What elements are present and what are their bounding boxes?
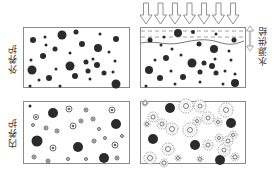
curing-agent-core: [93, 140, 95, 142]
curing-agent-particle: [162, 161, 166, 165]
cement-particle: [145, 85, 148, 88]
label-internal-curing: 内养护: [7, 118, 17, 148]
cement-particle: [29, 85, 32, 88]
cement-particle: [102, 71, 107, 76]
curing-agent-core: [111, 109, 114, 112]
cement-particle: [199, 81, 202, 84]
curing-agent-particle: [233, 155, 237, 159]
curing-agent-core: [32, 124, 33, 125]
curing-agent-particle: [232, 134, 235, 137]
curing-agent-core: [114, 144, 117, 147]
cement-particle: [154, 59, 157, 62]
cement-particle: [59, 85, 62, 88]
cement-particle: [145, 66, 153, 74]
cement-particle: [234, 73, 237, 76]
curing-agent-core: [68, 108, 71, 111]
cement-particle: [148, 134, 158, 144]
curing-agent-core: [85, 109, 87, 111]
cement-particle: [180, 74, 186, 80]
curing-agent-particle: [222, 148, 226, 152]
cement-particle: [28, 66, 37, 75]
cement-particle: [58, 31, 67, 40]
cement-particle: [226, 118, 236, 128]
curing-agent-core: [104, 137, 105, 138]
curing-agent-particle: [217, 121, 220, 124]
cement-particle: [29, 105, 32, 108]
cement-particle: [108, 51, 111, 54]
curing-agent-core: [47, 160, 49, 162]
cement-particle: [214, 58, 217, 61]
cement-particle: [180, 54, 183, 57]
cement-particle: [157, 75, 163, 81]
cement-particle: [191, 30, 195, 34]
curing-agent-particle: [196, 120, 199, 123]
panel-external-curing-water: [141, 28, 246, 88]
label-water-supply: 水源供给: [257, 26, 267, 66]
curing-diagram: 外养护 内养护 水源供给: [0, 0, 274, 178]
curing-agent-particle: [184, 104, 189, 109]
cement-particle: [40, 53, 46, 59]
cement-particle: [79, 41, 85, 47]
curing-agent-particle: [177, 157, 180, 160]
curing-agent-particle: [170, 127, 175, 132]
curing-agent-core: [45, 127, 47, 129]
cement-particle: [214, 71, 219, 76]
cement-particle: [222, 83, 225, 86]
curing-agent-core: [98, 128, 99, 129]
cement-particle: [48, 108, 58, 118]
cement-particle: [231, 79, 239, 87]
cement-particle: [38, 79, 41, 82]
curing-agent-particle: [226, 139, 230, 143]
cement-particle: [113, 36, 119, 42]
curing-agent-particle: [206, 116, 210, 120]
curing-agent-particle: [166, 147, 171, 152]
diagram-canvas: [0, 0, 274, 178]
cement-particle: [114, 60, 117, 63]
downward-arrows-icon: [140, 3, 239, 24]
cement-particle: [99, 33, 102, 36]
curing-agent-core: [121, 135, 122, 136]
curing-agent-particle: [206, 143, 210, 147]
cement-particle: [112, 80, 121, 89]
cement-particle: [160, 44, 163, 47]
curing-agent-core: [56, 130, 58, 132]
down-arrow-icon: [155, 3, 167, 24]
curing-agent-particle: [188, 128, 193, 133]
cement-particle: [112, 71, 115, 74]
cement-particle: [66, 62, 75, 71]
cement-particle: [165, 103, 175, 113]
curing-agent-core: [33, 156, 35, 158]
cement-particle: [174, 83, 177, 86]
cement-particle: [94, 44, 102, 52]
cement-particle: [99, 153, 109, 163]
cement-particle: [46, 75, 52, 81]
down-arrow-icon: [198, 3, 210, 24]
curing-agent-particle: [143, 101, 147, 105]
curing-agent-particle: [151, 115, 155, 119]
cement-particle: [170, 70, 173, 73]
cement-particle: [84, 60, 89, 65]
cement-particle: [30, 59, 33, 62]
cement-particle: [86, 69, 91, 74]
cement-particle: [30, 37, 36, 43]
curing-agent-core: [85, 158, 86, 159]
cement-particle: [53, 47, 58, 52]
curing-agent-particle: [198, 104, 202, 108]
cement-particle: [215, 33, 218, 36]
cement-particle: [171, 48, 174, 51]
cement-particle: [230, 59, 233, 62]
curing-agent-core: [116, 157, 118, 159]
cement-particle: [224, 70, 227, 73]
cement-particle: [215, 155, 225, 165]
down-arrow-icon: [140, 3, 152, 24]
cement-particle: [198, 70, 203, 75]
cement-particle: [188, 59, 197, 68]
cement-particle: [72, 73, 78, 79]
curing-agent-particle: [146, 123, 149, 126]
cement-particle: [45, 44, 48, 47]
cement-particle: [174, 29, 182, 37]
cement-particle: [44, 36, 47, 39]
cement-particle: [55, 68, 58, 71]
cement-particle: [73, 142, 83, 152]
cement-particle: [92, 58, 95, 61]
